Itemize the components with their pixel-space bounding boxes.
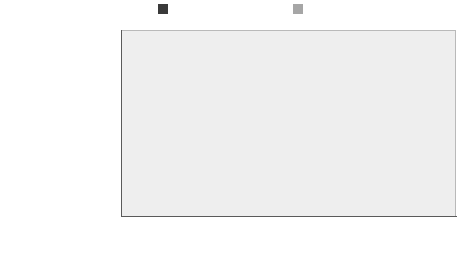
legend-item-did-not-receive-treatment	[293, 2, 310, 16]
legend-swatch-received-treatment	[158, 4, 168, 14]
stacked-bar-chart	[0, 0, 474, 254]
legend-swatch-did-not-receive-treatment	[293, 4, 303, 14]
bar-series-group	[121, 30, 456, 217]
y-axis-tick-labels	[74, 30, 118, 217]
x-axis-tick-labels	[121, 220, 456, 234]
legend-item-received-treatment	[158, 2, 175, 16]
chart-legend	[0, 2, 474, 18]
